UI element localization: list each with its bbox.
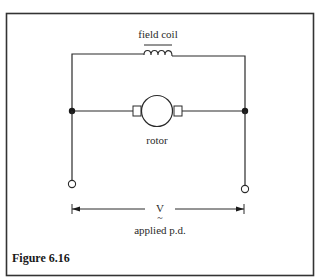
arrowhead-right-icon [236,207,244,212]
applied-pd-label: applied p.d. [134,224,186,236]
rotor-label: rotor [146,134,168,146]
circuit-diagram: field coil rotor V ~ applied p.d. Figure… [0,0,317,280]
figure-caption: Figure 6.16 [12,251,70,265]
brush-right-icon [174,106,182,116]
inductor-icon [144,51,172,57]
voltage-tilde: ~ [157,212,163,223]
terminal-left-icon [68,180,75,187]
figure-6-16: field coil rotor V ~ applied p.d. Figure… [0,0,317,280]
brush-left-icon [133,106,141,116]
rotor-icon [142,96,173,127]
rotor-branch [72,96,245,127]
terminal-right-icon [241,185,248,192]
field-coil-label: field coil [138,28,177,40]
arrowhead-left-icon [72,207,80,212]
